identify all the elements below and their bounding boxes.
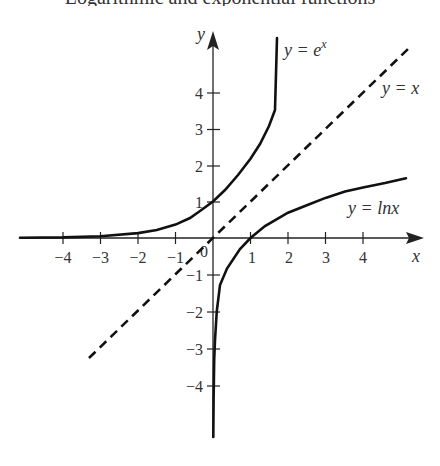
y-tick-labels: 4 3 2 1 −1 −2 −3 −4	[186, 85, 203, 395]
svg-text:−4: −4	[186, 378, 203, 395]
svg-text:−3: −3	[186, 341, 203, 358]
svg-text:−2: −2	[129, 249, 146, 266]
svg-text:−2: −2	[186, 304, 203, 321]
svg-text:−1: −1	[167, 249, 184, 266]
function-plot: −4 −3 −2 −1 1 2 3 4 0 4 3 2 1 −1 −2 −3 −…	[0, 0, 440, 466]
origin-label: 0	[200, 243, 208, 260]
svg-text:3: 3	[195, 121, 203, 138]
svg-text:4: 4	[195, 85, 203, 102]
svg-text:2: 2	[195, 158, 203, 175]
svg-text:−3: −3	[92, 249, 109, 266]
svg-text:−1: −1	[186, 267, 203, 284]
ln-label: y = lnx	[346, 198, 399, 218]
svg-text:3: 3	[322, 249, 330, 266]
svg-text:2: 2	[285, 249, 293, 266]
svg-text:4: 4	[359, 249, 367, 266]
x-axis-label: x	[411, 246, 420, 266]
y-axis-label: y	[195, 24, 205, 44]
x-tick-labels: −4 −3 −2 −1 1 2 3 4	[54, 249, 367, 266]
exp-label: y = ex	[282, 37, 327, 60]
identity-label: y = x	[380, 78, 419, 98]
svg-text:−4: −4	[54, 249, 71, 266]
exp-curve	[20, 38, 277, 238]
svg-text:1: 1	[248, 249, 256, 266]
